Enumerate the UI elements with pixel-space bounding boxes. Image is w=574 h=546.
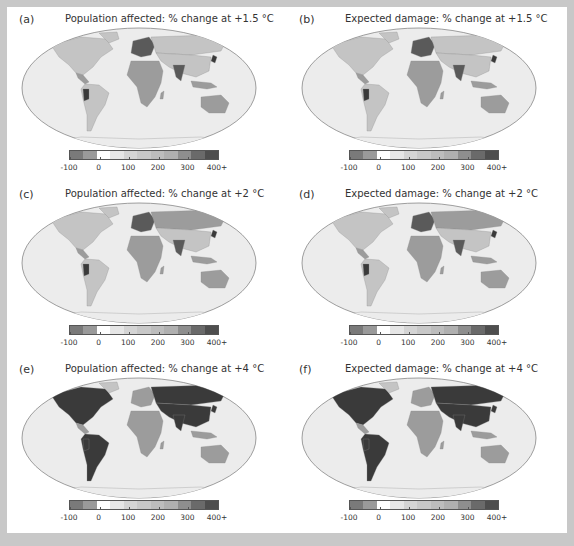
colorbar-tick-mark — [468, 332, 469, 335]
colorbar — [349, 325, 499, 335]
world-map — [301, 202, 537, 324]
colorbar-tick-label: 300 — [460, 338, 474, 347]
colorbar-tick-label: 400+ — [207, 338, 228, 347]
colorbar-tick-mark — [350, 332, 351, 335]
colorbar-tick-mark — [409, 157, 410, 160]
map-panel-d: (d)Expected damage: % change at +2 °C-10… — [287, 182, 567, 354]
colorbar-tick-mark — [129, 332, 130, 335]
colorbar — [69, 325, 219, 335]
colorbar-tick-label: 0 — [376, 163, 381, 172]
colorbar-tick-labels: -1000100200300400+ — [339, 513, 509, 523]
colorbar-tick-labels: -1000100200300400+ — [339, 338, 509, 348]
colorbar — [349, 500, 499, 510]
colorbar-tick-label: 100 — [121, 163, 135, 172]
colorbar-tick-label: -100 — [340, 338, 357, 347]
colorbar-tick-mark — [498, 507, 499, 510]
colorbar-tick-label: 100 — [401, 513, 415, 522]
colorbar-tick-mark — [100, 157, 101, 160]
panel-label: (e) — [19, 363, 34, 376]
colorbar-tick-label: 100 — [121, 513, 135, 522]
colorbar-tick-label: 200 — [431, 513, 445, 522]
colorbar-tick-mark — [188, 332, 189, 335]
colorbar-tick-labels: -1000100200300400+ — [59, 513, 229, 523]
panel-title: Population affected: % change at +2 °C — [65, 188, 264, 199]
map-panel-e: (e)Population affected: % change at +4 °… — [7, 357, 287, 529]
colorbar-tick-mark — [188, 507, 189, 510]
colorbar-tick-mark — [409, 332, 410, 335]
colorbar-tick-mark — [350, 507, 351, 510]
colorbar-tick-label: 100 — [401, 338, 415, 347]
colorbar-tick-mark — [159, 157, 160, 160]
colorbar-tick-mark — [218, 507, 219, 510]
colorbar-tick-label: 0 — [96, 338, 101, 347]
colorbar-tick-label: 0 — [96, 513, 101, 522]
colorbar-tick-label: 100 — [401, 163, 415, 172]
colorbar-tick-mark — [100, 332, 101, 335]
map-panel-c: (c)Population affected: % change at +2 °… — [7, 182, 287, 354]
colorbar-tick-label: 200 — [151, 338, 165, 347]
colorbar-tick-mark — [409, 507, 410, 510]
colorbar-tick-label: 300 — [460, 513, 474, 522]
colorbar — [69, 500, 219, 510]
colorbar-tick-mark — [70, 332, 71, 335]
figure-frame: (a)Population affected: % change at +1.5… — [7, 7, 567, 533]
colorbar-tick-label: 200 — [431, 338, 445, 347]
colorbar-tick-label: -100 — [340, 513, 357, 522]
colorbar-tick-mark — [468, 157, 469, 160]
colorbar-tick-mark — [439, 332, 440, 335]
colorbar-tick-label: 400+ — [207, 163, 228, 172]
colorbar-tick-label: 0 — [376, 513, 381, 522]
colorbar-tick-label: 0 — [96, 163, 101, 172]
colorbar-tick-mark — [380, 507, 381, 510]
colorbar-tick-label: -100 — [60, 513, 77, 522]
colorbar-tick-mark — [380, 157, 381, 160]
colorbar-tick-label: 400+ — [487, 163, 508, 172]
panel-label: (b) — [299, 13, 315, 26]
colorbar-tick-mark — [70, 507, 71, 510]
map-panel-b: (b)Expected damage: % change at +1.5 °C-… — [287, 7, 567, 179]
colorbar-tick-mark — [498, 332, 499, 335]
panel-title: Population affected: % change at +1.5 °C — [65, 13, 274, 24]
colorbar-tick-label: 300 — [180, 163, 194, 172]
colorbar-tick-labels: -1000100200300400+ — [59, 163, 229, 173]
colorbar-tick-label: -100 — [60, 338, 77, 347]
panel-title: Expected damage: % change at +4 °C — [345, 363, 538, 374]
panel-label: (d) — [299, 188, 315, 201]
colorbar-tick-label: 200 — [431, 163, 445, 172]
world-map — [21, 27, 257, 149]
colorbar-tick-label: 0 — [376, 338, 381, 347]
colorbar-tick-mark — [218, 332, 219, 335]
colorbar-tick-mark — [498, 157, 499, 160]
colorbar-tick-label: 400+ — [487, 338, 508, 347]
panel-title: Expected damage: % change at +1.5 °C — [345, 13, 548, 24]
colorbar-tick-mark — [100, 507, 101, 510]
colorbar-tick-label: 100 — [121, 338, 135, 347]
colorbar-tick-mark — [159, 507, 160, 510]
colorbar-tick-mark — [70, 157, 71, 160]
colorbar-tick-label: 200 — [151, 513, 165, 522]
colorbar-tick-label: 200 — [151, 163, 165, 172]
world-map — [21, 377, 257, 499]
colorbar-tick-label: 400+ — [487, 513, 508, 522]
panel-label: (f) — [299, 363, 311, 376]
colorbar-tick-labels: -1000100200300400+ — [339, 163, 509, 173]
panel-label: (a) — [19, 13, 34, 26]
colorbar — [69, 150, 219, 160]
colorbar — [349, 150, 499, 160]
map-panel-f: (f)Expected damage: % change at +4 °C-10… — [287, 357, 567, 529]
colorbar-tick-mark — [468, 507, 469, 510]
colorbar-tick-mark — [439, 157, 440, 160]
colorbar-tick-mark — [129, 157, 130, 160]
colorbar-tick-mark — [129, 507, 130, 510]
colorbar-tick-label: 300 — [180, 338, 194, 347]
map-panel-a: (a)Population affected: % change at +1.5… — [7, 7, 287, 179]
panel-title: Expected damage: % change at +2 °C — [345, 188, 538, 199]
colorbar-tick-label: 400+ — [207, 513, 228, 522]
colorbar-tick-mark — [439, 507, 440, 510]
colorbar-tick-label: -100 — [60, 163, 77, 172]
colorbar-tick-labels: -1000100200300400+ — [59, 338, 229, 348]
colorbar-tick-mark — [188, 157, 189, 160]
colorbar-tick-mark — [380, 332, 381, 335]
world-map — [21, 202, 257, 324]
colorbar-tick-mark — [350, 157, 351, 160]
